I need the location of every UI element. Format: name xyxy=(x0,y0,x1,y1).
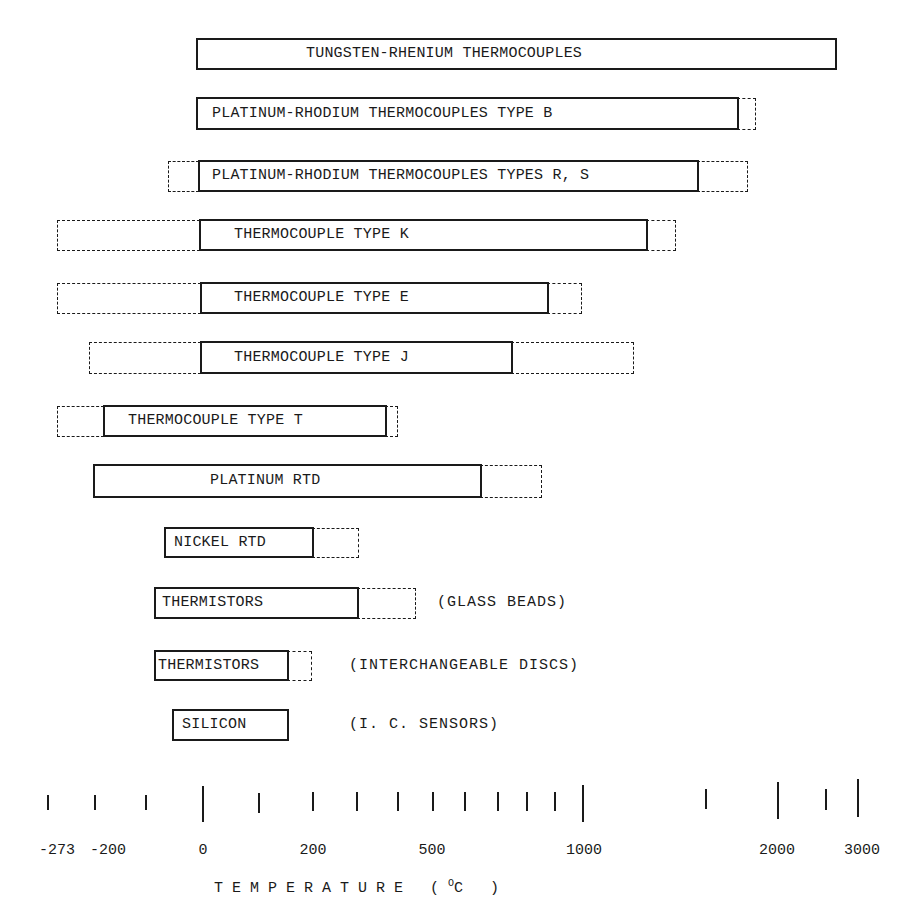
sensor-name-label: THERMISTORS xyxy=(162,595,263,610)
axis-tick-mark xyxy=(777,782,779,819)
sensor-name-label: THERMOCOUPLE TYPE J xyxy=(234,350,409,365)
x-axis-title: TEMPERATURE (OC ) xyxy=(214,878,508,897)
extended-range-box xyxy=(547,283,582,314)
axis-tick-mark xyxy=(554,792,556,811)
axis-tick-mark xyxy=(356,792,358,811)
extended-range-box xyxy=(480,465,542,498)
extended-range-box xyxy=(511,342,634,374)
sensor-name-label: TUNGSTEN-RHENIUM THERMOCOUPLES xyxy=(306,46,582,61)
extended-range-box xyxy=(646,220,676,251)
extended-range-box xyxy=(312,528,359,558)
sensor-name-label: PLATINUM RTD xyxy=(210,473,320,488)
axis-tick-label: 0 xyxy=(198,843,207,858)
axis-tick-label: 200 xyxy=(299,843,326,858)
axis-tick-label: 1000 xyxy=(566,843,602,858)
axis-tick-mark xyxy=(47,795,49,810)
sensor-name-label: SILICON xyxy=(182,717,246,732)
axis-tick-mark xyxy=(825,789,827,810)
axis-tick-label: 500 xyxy=(418,843,445,858)
extended-range-box xyxy=(57,220,200,251)
axis-tick-label: 2000 xyxy=(759,843,795,858)
extended-range-box xyxy=(357,588,416,619)
axis-tick-label: -200 xyxy=(90,843,126,858)
sensor-name-label: THERMOCOUPLE TYPE T xyxy=(128,413,303,428)
extended-range-box xyxy=(737,98,756,130)
axis-title-text: TEMPERATURE ( xyxy=(214,880,448,897)
extended-range-box xyxy=(168,161,199,192)
sensor-note-label: (INTERCHANGEABLE DISCS) xyxy=(349,658,579,673)
axis-tick-mark xyxy=(432,792,434,811)
axis-tick-mark xyxy=(857,779,859,817)
extended-range-box xyxy=(57,406,104,437)
sensor-name-label: THERMOCOUPLE TYPE E xyxy=(234,290,409,305)
extended-range-box xyxy=(287,651,312,681)
sensor-name-label: THERMOCOUPLE TYPE K xyxy=(234,227,409,242)
sensor-name-label: PLATINUM-RHODIUM THERMOCOUPLES TYPE B xyxy=(212,106,552,121)
temperature-sensor-range-chart: TUNGSTEN-RHENIUM THERMOCOUPLESPLATINUM-R… xyxy=(0,0,919,921)
sensor-name-label: NICKEL RTD xyxy=(174,535,266,550)
axis-tick-label: -273 xyxy=(39,843,75,858)
axis-tick-mark xyxy=(258,793,260,813)
axis-tick-mark xyxy=(497,792,499,811)
axis-tick-mark xyxy=(705,789,707,809)
axis-tick-mark xyxy=(94,795,96,810)
extended-range-box xyxy=(89,342,201,374)
extended-range-box xyxy=(697,161,748,192)
axis-tick-mark xyxy=(397,792,399,811)
axis-tick-mark xyxy=(145,795,147,810)
sensor-note-label: (I. C. SENSORS) xyxy=(349,717,499,732)
axis-title-unit: C ) xyxy=(454,880,508,897)
axis-tick-mark xyxy=(312,792,314,811)
axis-tick-mark xyxy=(464,792,466,811)
axis-tick-mark xyxy=(526,792,528,811)
axis-tick-label: 3000 xyxy=(844,843,880,858)
sensor-note-label: (GLASS BEADS) xyxy=(437,595,567,610)
extended-range-box xyxy=(57,283,201,314)
axis-tick-mark xyxy=(582,785,584,822)
sensor-name-label: PLATINUM-RHODIUM THERMOCOUPLES TYPES R, … xyxy=(212,168,589,183)
sensor-name-label: THERMISTORS xyxy=(158,658,259,673)
axis-tick-mark xyxy=(202,786,204,822)
